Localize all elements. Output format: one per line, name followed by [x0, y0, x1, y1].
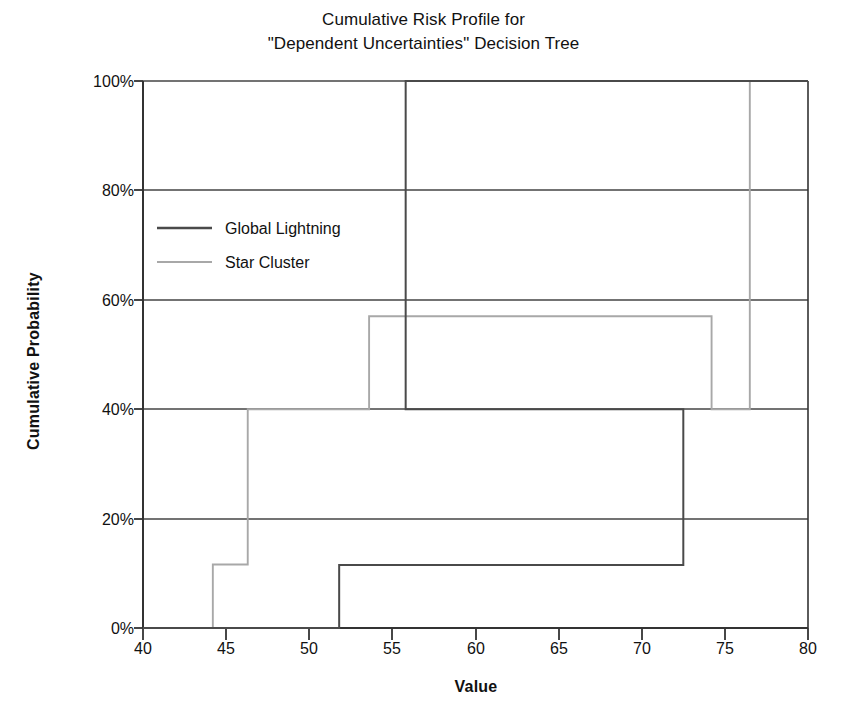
- legend: Global Lightning Star Cluster: [157, 220, 341, 271]
- y-axis-ticks: [134, 81, 143, 628]
- series-line-global-lightning: [143, 81, 808, 628]
- cumulative-risk-profile-chart: Cumulative Risk Profile for "Dependent U…: [0, 0, 847, 722]
- plot-area: Global Lightning Star Cluster: [0, 0, 847, 722]
- gridlines: [143, 81, 808, 519]
- x-axis-ticks: [143, 628, 808, 640]
- series-line-star-cluster: [143, 81, 808, 628]
- legend-label-star-cluster: Star Cluster: [225, 254, 310, 271]
- legend-label-global-lightning: Global Lightning: [225, 220, 341, 237]
